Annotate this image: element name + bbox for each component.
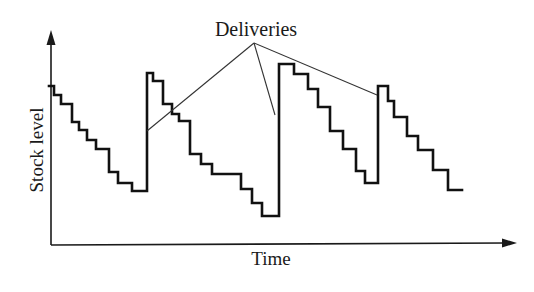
x-axis-arrow-icon — [502, 239, 517, 248]
stock-level-line — [49, 64, 462, 216]
delivery-pointer-3 — [254, 43, 377, 95]
delivery-pointer-2 — [254, 43, 275, 115]
stock-level-diagram: Deliveries Time Stock level — [0, 0, 534, 292]
x-axis — [51, 243, 505, 245]
x-axis-label: Time — [251, 248, 290, 269]
annotation-deliveries: Deliveries — [215, 18, 297, 40]
y-axis-label: Stock level — [26, 108, 47, 193]
delivery-pointers — [147, 43, 377, 131]
y-axis-arrow-icon — [47, 30, 56, 45]
